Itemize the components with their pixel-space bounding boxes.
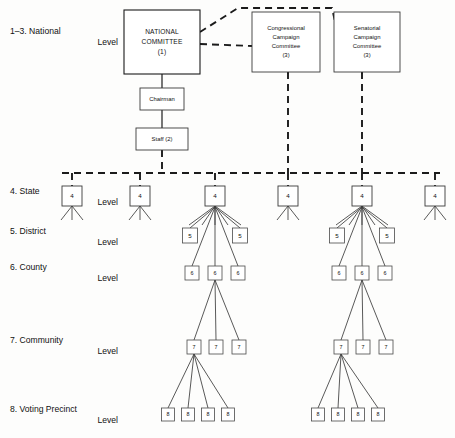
node-label: Campaign: [273, 34, 300, 40]
node-value: 7: [362, 344, 365, 350]
edge-county-community: [362, 280, 386, 340]
edge-county-community: [362, 280, 363, 340]
node-label: Chairman: [149, 96, 175, 102]
node-value: 7: [340, 344, 343, 350]
district-node-district-left-1[interactable]: 5: [183, 228, 198, 243]
state-node-state-2[interactable]: 4: [130, 186, 150, 206]
edge-county-community: [215, 280, 216, 340]
precinct-node-precinct-right-2[interactable]: 8: [332, 408, 345, 421]
community-node-community-right-1[interactable]: 7: [334, 340, 348, 354]
node-value: 6: [214, 270, 217, 276]
edge-community-precinct: [338, 354, 341, 408]
county-node-county-right-2[interactable]: 6: [355, 266, 369, 280]
node-label: Staff (2): [152, 136, 173, 142]
node-label: (3): [282, 52, 289, 58]
state-leg: [129, 206, 140, 220]
node-label: Senatorial: [354, 25, 381, 31]
district-node-district-right-2[interactable]: 5: [380, 228, 395, 243]
node-value: 8: [227, 411, 230, 417]
community-node-community-left-3[interactable]: 7: [232, 340, 246, 354]
node-senatorial-campaign-committee[interactable]: SenatorialCampaignCommittee(3): [334, 12, 400, 72]
national-boxes-group: NATIONALCOMMITTEE(1)CongressionalCampaig…: [124, 10, 400, 150]
state-leg: [424, 206, 435, 220]
level-label-district: 5. DistrictLevel: [10, 226, 118, 247]
state-leg: [288, 206, 299, 220]
org-chart-diagram: 1–3. NationalLevel4. StateLevel5. Distri…: [0, 0, 455, 438]
node-value: 8: [337, 411, 340, 417]
state-node-state-1[interactable]: 4: [62, 186, 82, 206]
state-leg: [61, 206, 72, 220]
level-labels-group: 1–3. NationalLevel4. StateLevel5. Distri…: [10, 26, 118, 425]
district-node-district-left-2[interactable]: 5: [233, 228, 248, 243]
hierarchy-nodes-group: 444444556667778888556667778888: [62, 186, 445, 421]
node-value: 6: [237, 270, 240, 276]
node-value: 7: [238, 344, 241, 350]
node-label: Congressional: [267, 25, 305, 31]
community-node-community-right-2[interactable]: 7: [356, 340, 370, 354]
edge-community-precinct: [194, 354, 208, 408]
level-label-primary: 7. Community: [10, 335, 64, 345]
community-node-community-left-2[interactable]: 7: [209, 340, 223, 354]
node-value: 6: [191, 270, 194, 276]
node-national-committee[interactable]: NATIONALCOMMITTEE(1): [124, 10, 200, 74]
state-node-state-6[interactable]: 4: [425, 186, 445, 206]
level-label-county: 6. CountyLevel: [10, 262, 118, 283]
level-label-community: 7. CommunityLevel: [10, 335, 118, 356]
level-label-secondary: Level: [97, 37, 118, 47]
state-node-state-3[interactable]: 4: [205, 186, 225, 206]
level-label-secondary: Level: [97, 346, 118, 356]
community-node-community-right-3[interactable]: 7: [379, 340, 393, 354]
level-label-primary: 1–3. National: [10, 26, 61, 36]
district-node-district-right-1[interactable]: 5: [330, 228, 345, 243]
node-value: 7: [193, 344, 196, 350]
node-value: 8: [187, 411, 190, 417]
precinct-node-precinct-left-2[interactable]: 8: [182, 408, 195, 421]
state-node-state-5[interactable]: 4: [352, 186, 372, 206]
precinct-node-precinct-right-1[interactable]: 8: [312, 408, 325, 421]
node-label: Committee: [272, 43, 301, 49]
community-node-community-left-1[interactable]: 7: [187, 340, 201, 354]
node-value: 6: [338, 270, 341, 276]
state-leg: [277, 206, 288, 220]
diagram-canvas: 1–3. NationalLevel4. StateLevel5. Distri…: [0, 0, 455, 438]
precinct-node-precinct-right-4[interactable]: 8: [372, 408, 385, 421]
precinct-node-precinct-left-3[interactable]: 8: [202, 408, 215, 421]
state-leg: [72, 206, 83, 220]
precinct-node-precinct-left-1[interactable]: 8: [162, 408, 175, 421]
county-node-county-left-1[interactable]: 6: [185, 266, 199, 280]
county-node-county-left-3[interactable]: 6: [231, 266, 245, 280]
county-node-county-left-2[interactable]: 6: [208, 266, 222, 280]
node-value: 4: [433, 192, 437, 199]
state-node-state-4[interactable]: 4: [278, 186, 298, 206]
edge-county-community: [194, 280, 215, 340]
node-label: Committee: [353, 43, 382, 49]
node-value: 4: [286, 192, 290, 199]
node-staff[interactable]: Staff (2): [136, 128, 188, 150]
node-value: 5: [238, 232, 242, 239]
state-leg: [189, 206, 215, 225]
level-label-secondary: Level: [97, 273, 118, 283]
edge-community-precinct: [341, 354, 378, 408]
state-leg: [140, 206, 151, 220]
edge-county-community: [215, 280, 239, 340]
state-leg: [215, 206, 241, 225]
node-label: (1): [158, 48, 167, 56]
precinct-node-precinct-right-3[interactable]: 8: [352, 408, 365, 421]
node-chairman[interactable]: Chairman: [140, 88, 184, 110]
county-node-county-right-1[interactable]: 6: [332, 266, 346, 280]
state-leg: [336, 206, 362, 225]
level-label-primary: 6. County: [10, 262, 47, 272]
precinct-node-precinct-left-4[interactable]: 8: [222, 408, 235, 421]
dashed-nc-to-congressional: [200, 44, 252, 46]
node-value: 8: [207, 411, 210, 417]
level-label-precinct: 8. Voting PrecinctLevel: [10, 404, 118, 425]
node-label: Campaign: [354, 34, 381, 40]
county-node-county-right-3[interactable]: 6: [378, 266, 392, 280]
level-label-primary: 8. Voting Precinct: [10, 404, 77, 414]
node-box: [252, 12, 320, 72]
edge-community-precinct: [318, 354, 341, 408]
level-label-secondary: Level: [97, 415, 118, 425]
node-value: 4: [70, 192, 74, 199]
node-congressional-campaign-committee[interactable]: CongressionalCampaignCommittee(3): [252, 12, 320, 72]
state-leg: [362, 206, 388, 225]
